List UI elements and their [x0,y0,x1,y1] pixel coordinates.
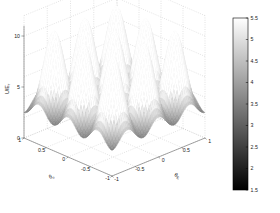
svg-text:3.5: 3.5 [251,101,258,107]
figure-container: 0510U/Er10.50-0.5-1θn-1-0.500.51θE 5.554… [0,0,280,213]
svg-text:0: 0 [162,157,165,163]
svg-text:U/Er: U/Er [4,83,11,94]
svg-text:10: 10 [14,33,20,39]
colorbar: 5.554.543.532.521.5 [233,15,258,193]
svg-text:5: 5 [17,84,20,90]
svg-text:4: 4 [251,79,254,85]
svg-text:θn: θn [48,172,55,181]
svg-text:1: 1 [18,137,21,143]
svg-text:-0.5: -0.5 [81,166,90,172]
svg-text:5: 5 [251,36,254,42]
svg-text:2.5: 2.5 [251,144,258,150]
svg-text:1: 1 [208,138,211,144]
svg-text:0.5: 0.5 [38,147,45,153]
svg-text:2: 2 [251,165,254,171]
svg-text:4.5: 4.5 [251,58,258,64]
svg-text:-1: -1 [105,175,110,181]
svg-text:0.5: 0.5 [183,147,190,153]
surface-plot-svg: 0510U/Er10.50-0.5-1θn-1-0.500.51θE 5.554… [0,0,280,213]
svg-text:-1: -1 [114,176,119,182]
svg-text:θE: θE [173,171,181,180]
svg-text:0: 0 [62,156,65,162]
surface-mesh [24,6,205,151]
svg-text:3: 3 [251,122,254,128]
svg-text:-0.5: -0.5 [135,166,144,172]
svg-text:1.5: 1.5 [251,187,258,193]
svg-text:5.5: 5.5 [251,15,258,21]
